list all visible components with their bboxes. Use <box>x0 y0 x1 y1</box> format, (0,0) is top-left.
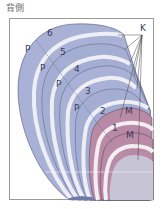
label-2: 2 <box>100 106 106 116</box>
label-3: 3 <box>85 86 91 96</box>
label-p-4: P <box>74 103 80 113</box>
label-m-2: M <box>126 130 134 140</box>
label-6: 6 <box>47 28 53 38</box>
label-p-3: P <box>56 79 62 89</box>
label-p-1: P <box>25 44 31 54</box>
label-p-2: P <box>40 63 46 73</box>
label-k: K <box>140 23 147 33</box>
label-1: 1 <box>112 123 118 133</box>
label-4: 4 <box>74 64 80 74</box>
label-5: 5 <box>60 47 66 57</box>
layered-cortex-diagram: K 6 P 5 P 4 P 3 P 2 M 1 M <box>0 0 164 209</box>
label-m-1: M <box>125 106 133 116</box>
